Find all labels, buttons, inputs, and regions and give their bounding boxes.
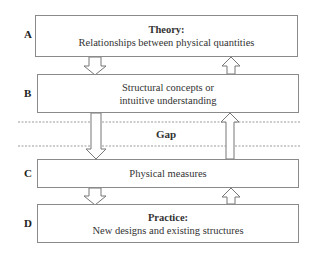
gap-label: Gap [150, 128, 182, 140]
theory-practice-diagram: A B C D Theory: Relationships between ph… [0, 0, 314, 253]
row-label-a: A [24, 28, 32, 40]
theory-box: Theory: Relationships between physical q… [35, 15, 298, 57]
down-arrow-icon [84, 57, 106, 75]
theory-text: Relationships between physical quantitie… [79, 36, 255, 49]
up-arrow-icon [222, 188, 240, 204]
structural-concepts-line2: intuitive understanding [119, 94, 216, 107]
row-label-b: B [24, 87, 31, 99]
down-arrow-icon [84, 188, 106, 205]
physical-measures-text: Physical measures [129, 167, 206, 180]
structural-concepts-box: Structural concepts or intuitive underst… [37, 74, 299, 113]
practice-text: New designs and existing structures [92, 224, 243, 237]
physical-measures-box: Physical measures [37, 159, 299, 188]
up-arrow-icon [222, 57, 240, 74]
down-arrow-icon [86, 113, 106, 159]
structural-concepts-line1: Structural concepts or [122, 81, 214, 94]
row-label-c: C [24, 167, 32, 179]
up-arrow-icon [221, 113, 239, 159]
practice-box: Practice: New designs and existing struc… [37, 204, 299, 243]
row-label-d: D [24, 217, 32, 229]
practice-title: Practice: [148, 211, 188, 224]
theory-title: Theory: [148, 23, 184, 36]
